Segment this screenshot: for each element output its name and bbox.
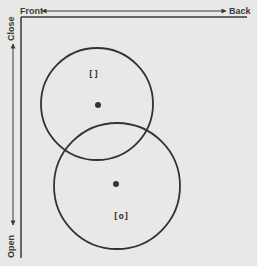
open-label: Open <box>7 235 16 258</box>
upper-marker-icon: [] <box>88 70 99 79</box>
front-label: Front <box>20 7 43 16</box>
upper-center-dot <box>95 102 101 108</box>
close-label: Close <box>7 16 16 41</box>
lower-marker-icon: [o] <box>113 212 129 221</box>
lower-center-dot <box>113 181 119 187</box>
diagram-canvas <box>0 0 257 266</box>
back-label: Back <box>229 7 251 16</box>
